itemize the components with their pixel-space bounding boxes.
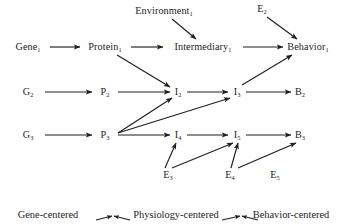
node-label: Behavior — [287, 41, 325, 52]
node-subscript: 2 — [106, 91, 109, 98]
edge-e4-to-i5 — [231, 143, 238, 168]
node-label: P — [101, 86, 107, 97]
edge-environment1-to-intermediary1 — [172, 19, 196, 39]
node-label: Intermediary — [174, 41, 228, 52]
edge-i3-to-behavior1 — [242, 55, 292, 85]
node-i2: I2 — [175, 87, 182, 97]
node-subscript: 3 — [237, 91, 240, 98]
edge-e2-to-behavior1 — [267, 17, 297, 39]
node-label: I — [175, 86, 179, 97]
node-subscript: 2 — [302, 91, 305, 98]
node-subscript: 2 — [178, 91, 181, 98]
node-b3: B3 — [295, 130, 305, 140]
node-intermediary1: Intermediary1 — [174, 42, 231, 52]
node-i5: I5 — [234, 130, 241, 140]
node-subscript: 3 — [30, 134, 33, 141]
node-gene1: Gene1 — [15, 42, 40, 52]
node-subscript: 2 — [264, 8, 267, 15]
node-subscript: 5 — [237, 134, 240, 141]
legend-connector-gene-physiology-right — [114, 216, 130, 220]
node-label: B — [295, 129, 302, 140]
node-subscript: 1 — [190, 10, 193, 17]
arrow-layer — [0, 0, 346, 224]
node-e5: E5 — [270, 170, 280, 180]
node-b2: B2 — [295, 87, 305, 97]
node-subscript: 1 — [325, 46, 328, 53]
node-label: P — [101, 129, 107, 140]
node-i3: I3 — [234, 87, 241, 97]
node-e4: E4 — [225, 170, 235, 180]
node-g2: G2 — [23, 87, 34, 97]
node-label: I — [175, 129, 179, 140]
node-subscript: 3 — [302, 134, 305, 141]
node-label: B — [295, 86, 302, 97]
legend-physiology-centered: Physiology-centered — [133, 210, 218, 220]
edge-p3-to-i3 — [118, 98, 230, 133]
edge-e4-to-b3 — [238, 143, 296, 168]
node-subscript: 2 — [30, 91, 33, 98]
node-e3: E3 — [163, 170, 173, 180]
legend-connector-physiology-behavior-left — [222, 216, 240, 220]
node-subscript: 3 — [170, 174, 173, 181]
diagram-canvas: Environment1E2Gene1Protein1Intermediary1… — [0, 0, 346, 224]
node-protein1: Protein1 — [88, 42, 121, 52]
node-label: Environment — [135, 5, 189, 16]
node-behavior1: Behavior1 — [287, 42, 328, 52]
node-environment1: Environment1 — [135, 6, 193, 16]
node-subscript: 4 — [178, 134, 181, 141]
legend-behavior-centered: Behavior-centered — [253, 210, 330, 220]
edge-e3-to-i4 — [165, 143, 176, 168]
edges-group — [45, 17, 297, 168]
node-subscript: 1 — [37, 46, 40, 53]
edge-p3-to-i2 — [118, 98, 172, 133]
node-subscript: 1 — [228, 46, 231, 53]
node-label: I — [234, 86, 238, 97]
node-p2: P2 — [101, 87, 110, 97]
legend-gene-centered: Gene-centered — [18, 210, 79, 220]
node-g3: G3 — [23, 130, 34, 140]
node-label: Gene — [15, 41, 37, 52]
node-subscript: 4 — [232, 174, 235, 181]
node-subscript: 3 — [106, 134, 109, 141]
node-subscript: 5 — [277, 174, 280, 181]
legend-connector-gene-physiology-left — [96, 216, 112, 220]
node-e2: E2 — [257, 4, 267, 14]
node-i4: I4 — [175, 130, 182, 140]
node-subscript: 1 — [118, 46, 121, 53]
node-label: Protein — [88, 41, 118, 52]
node-p3: P3 — [101, 130, 110, 140]
edge-protein1-to-i2 — [117, 55, 170, 87]
edge-e3-to-i5 — [172, 143, 233, 168]
node-label: I — [234, 129, 238, 140]
